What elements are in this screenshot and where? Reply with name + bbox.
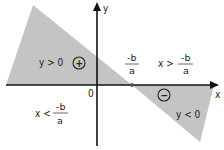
negative-domain-denominator: a <box>183 65 189 76</box>
root-denominator: a <box>129 65 135 76</box>
x-axis-label: x <box>215 89 221 100</box>
y-axis-arrow-icon <box>93 2 101 11</box>
positive-domain-prefix: x < <box>35 108 51 119</box>
x-axis-arrow-icon <box>210 81 219 89</box>
minus-sign: − <box>161 90 169 101</box>
origin-label: 0 <box>88 88 94 99</box>
positive-domain-numerator: -b <box>56 101 65 112</box>
root-numerator: -b <box>127 52 136 63</box>
sign-diagram: y x 0 -b a y > 0 + x < -b a x > -b a − y… <box>0 0 224 150</box>
positive-region <box>6 5 132 85</box>
negative-region <box>132 85 214 142</box>
positive-domain-denominator: a <box>57 115 63 126</box>
positive-condition: y > 0 <box>39 57 64 68</box>
negative-domain-numerator: -b <box>181 52 190 63</box>
negative-condition: y < 0 <box>176 109 201 120</box>
negative-domain-prefix: x > <box>158 58 174 69</box>
plus-sign: + <box>76 58 84 69</box>
root-point <box>130 83 134 87</box>
y-axis-label: y <box>103 3 109 14</box>
